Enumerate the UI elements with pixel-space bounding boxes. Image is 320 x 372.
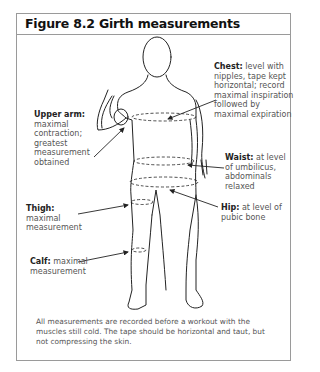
hip-tape	[130, 177, 198, 187]
calf-label-name: Calf:	[30, 257, 51, 266]
thigh-label-name: Thigh:	[26, 204, 55, 213]
hip-label-name: Hip:	[221, 203, 239, 212]
waist-label: Waist: at level of umbilicus, abdominals…	[225, 153, 291, 191]
head	[143, 37, 171, 77]
waist-tape	[134, 157, 194, 165]
chest-pointer	[168, 100, 216, 119]
chest-label: Chest: level with nipples, tape kept hor…	[214, 62, 294, 120]
upper-arm-label: Upper arm: maximal contraction; greatest…	[34, 110, 90, 168]
thigh-tape	[131, 200, 153, 205]
chest-label-name: Chest:	[214, 62, 243, 71]
chest-tape	[132, 113, 196, 121]
upper-arm-label-name: Upper arm:	[34, 110, 85, 119]
calf-label: Calf: maximal measurement	[30, 257, 90, 276]
calf-tape	[132, 248, 146, 252]
hip-label: Hip: at level of pubic bone	[221, 203, 291, 222]
inner-leg	[152, 190, 166, 290]
waist-label-name: Waist:	[225, 153, 253, 162]
torso-outline-left	[117, 75, 152, 309]
torso-outline-right	[166, 75, 203, 308]
figure-caption: All measurements are recorded before a w…	[36, 317, 276, 347]
thigh-label: Thigh: maximal measurement	[26, 204, 86, 233]
biceps	[114, 109, 128, 125]
upper-arm-pointer	[94, 128, 124, 157]
right-arm-inner	[190, 120, 192, 165]
